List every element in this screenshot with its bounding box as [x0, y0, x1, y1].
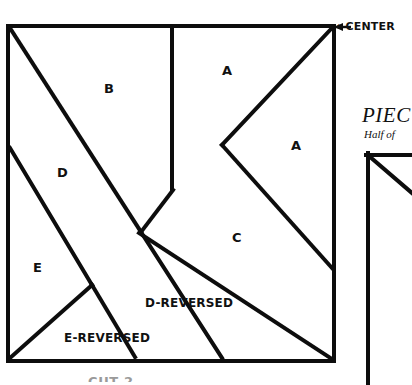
piece-label-e-reversed: E-REVERSED	[64, 332, 150, 344]
piece-label-d: D	[57, 166, 68, 179]
center-callout-label: ←CENTER	[336, 21, 395, 32]
tangram-construction-figure	[0, 0, 412, 385]
panel-heading: PIEC	[362, 105, 411, 126]
piece-label-a-right: A	[291, 139, 302, 152]
diagram-canvas: A A B C D E D-REVERSED E-REVERSED ←CENTE…	[0, 0, 412, 385]
piece-label-b: B	[104, 82, 114, 95]
bottom-clipped-caption: CUT 2	[88, 375, 134, 382]
piece-label-d-reversed: D-REVERSED	[145, 297, 233, 309]
panel-subheading: Half of	[364, 129, 395, 140]
piece-label-c: C	[232, 231, 242, 244]
piece-label-a-top: A	[222, 64, 233, 77]
piece-label-e: E	[33, 261, 42, 274]
panel-square-diagonal	[369, 156, 412, 193]
